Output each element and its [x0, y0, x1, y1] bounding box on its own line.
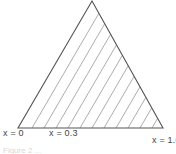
hatch-line — [68, 45, 117, 128]
hatch-line — [92, 66, 128, 128]
ternary-triangle-diagram — [0, 0, 176, 154]
triangle-outline — [18, 1, 163, 128]
label-x-0: x = 0 — [3, 128, 24, 138]
figure-caption: Figure 2 ... — [3, 146, 41, 154]
hatch-line — [140, 108, 152, 128]
hatch-line — [104, 76, 134, 128]
hatch-line — [80, 55, 122, 128]
hatch-line — [116, 87, 140, 128]
hatch-line — [44, 24, 105, 128]
label-x-0-3: x = 0.3 — [49, 128, 78, 138]
label-x-1-0: x = 1.0 — [152, 135, 176, 145]
hatch-line — [128, 97, 146, 128]
hatch-line — [32, 13, 99, 128]
hatch-line — [152, 118, 158, 128]
